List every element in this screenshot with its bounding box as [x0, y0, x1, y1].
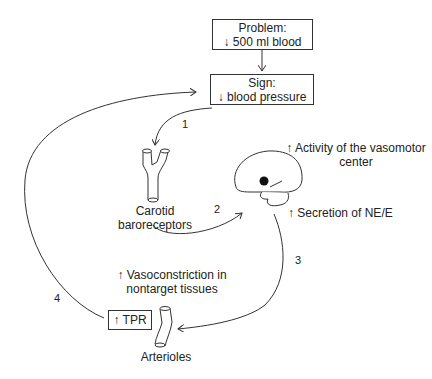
vasoconstriction-label-line2: nontarget tissues	[112, 282, 232, 296]
step-2-label: 2	[214, 203, 220, 215]
vasomotor-label-line2: center	[286, 155, 426, 169]
vasomotor-label: ↑ Activity of the vasomotor center	[286, 141, 426, 169]
carotid-label-line1: Carotid	[118, 204, 192, 218]
problem-box: Problem: ↓ 500 ml blood	[212, 19, 313, 50]
problem-value: ↓ 500 ml blood	[213, 35, 312, 49]
tpr-box: ↑ TPR	[108, 310, 152, 330]
carotid-artery-icon	[143, 149, 170, 202]
vasomotor-label-line1: ↑ Activity of the vasomotor	[286, 141, 426, 155]
arterioles-label: Arterioles	[136, 350, 196, 364]
vasoconstriction-label: ↑ Vasoconstriction in nontarget tissues	[112, 268, 232, 296]
secretion-label: ↑ Secretion of NE/E	[288, 206, 393, 220]
step-4-label: 4	[54, 292, 60, 304]
arteriole-icon	[155, 307, 172, 348]
diagram-canvas	[0, 0, 432, 379]
step-3-label: 3	[295, 254, 301, 266]
sign-box: Sign: ↓ blood pressure	[210, 74, 314, 105]
sign-value: ↓ blood pressure	[211, 90, 313, 104]
step-1-label: 1	[182, 118, 188, 130]
carotid-label: Carotid baroreceptors	[118, 204, 192, 232]
sign-label: Sign:	[211, 76, 313, 90]
vasoconstriction-label-line1: ↑ Vasoconstriction in	[112, 268, 232, 282]
problem-label: Problem:	[213, 21, 312, 35]
carotid-label-line2: baroreceptors	[118, 218, 192, 232]
